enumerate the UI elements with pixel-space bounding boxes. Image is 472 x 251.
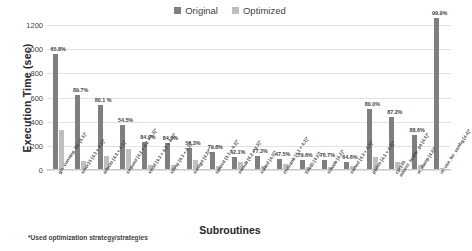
legend-label-original: Original xyxy=(185,5,218,16)
bar-data-label: 89.7% xyxy=(73,87,88,93)
y-axis-tick-label: 0 xyxy=(39,166,43,175)
bar-original xyxy=(255,156,260,169)
x-axis-labels: gls_constep_tile [4.1]*smvr15 [4.1 + 4.2… xyxy=(47,172,451,224)
x-axis-label-cell: swpued [4.1 + 4.2 + 4.3]* xyxy=(114,172,136,224)
x-axis-label-cell: swned [4.2 + 4.3]* xyxy=(339,172,361,224)
bar-original xyxy=(344,162,349,169)
bar-group: 65.8% xyxy=(47,24,69,169)
legend-item-optimized: Optimized xyxy=(232,5,286,16)
bar-original xyxy=(300,160,305,169)
y-axis-tick-label: 200 xyxy=(30,141,43,150)
bar-data-label: 79.8% xyxy=(208,144,223,150)
x-axis-label-cell: smvr15 [4.1 + 4.2]* xyxy=(69,172,91,224)
chart-legend: Original Optimized xyxy=(0,5,460,16)
y-axis-tick-label: 1000 xyxy=(26,45,43,54)
y-axis-tick-label: 1200 xyxy=(26,21,43,30)
x-axis-label-cell: filictD [4.2]* xyxy=(294,172,316,224)
bar-original xyxy=(434,18,439,169)
y-axis-tick-label: 800 xyxy=(30,69,43,78)
legend-swatch-original xyxy=(174,7,181,14)
bar-data-label: 65.8% xyxy=(51,46,66,52)
x-axis-label-cell: sinuob [4.2]* xyxy=(316,172,338,224)
bar-data-label: 64.6% xyxy=(342,154,357,160)
bar-original xyxy=(98,105,103,169)
x-axis-label-cell: adocts [4.1 + 4.2]* xyxy=(92,172,114,224)
x-axis-label-cell: w_damp [4.2]* xyxy=(406,172,428,224)
x-axis-label-cell: sprocd [4.1 + 4.2]* xyxy=(204,172,226,224)
x-axis-label-cell: suntgrt [4.2]* xyxy=(182,172,204,224)
bar-original xyxy=(277,159,282,169)
bar-group: 76.7% xyxy=(316,24,338,169)
bar-data-label: 99.9% xyxy=(432,10,447,16)
x-axis-label-cell: pbilim [4.1 + 4.2]* xyxy=(361,172,383,224)
bar-original xyxy=(210,152,215,169)
legend-label-optimized: Optimized xyxy=(243,5,286,16)
x-axis-label-cell: gls_constep_tile [4.1]* xyxy=(47,172,69,224)
chart-footnote: *Used optimization strategy/strategies xyxy=(28,234,148,241)
bar-data-label: 54.5% xyxy=(118,117,133,123)
bar-group: 47.5% xyxy=(271,24,293,169)
x-axis-label-cell: strud [4.1 + 4.2 + 4.3]* xyxy=(137,172,159,224)
legend-item-original: Original xyxy=(174,5,218,16)
x-axis-label-cell: cpry16advect_scalar_p4 [4.1]* xyxy=(384,172,406,224)
y-axis-tick-label: 600 xyxy=(30,93,43,102)
bar-original xyxy=(53,54,58,169)
x-axis-label-cell: in_use_for_config [4.4]* xyxy=(428,172,450,224)
bar-data-label: 80.0% xyxy=(365,101,380,107)
bar-data-label: 80.1 % xyxy=(95,97,112,103)
bar-original xyxy=(75,95,80,169)
x-axis-label-cell: mulcaob [4.1 + 4.2]* xyxy=(271,172,293,224)
bar-original xyxy=(232,157,237,169)
bar-data-label: 87.2% xyxy=(387,109,402,115)
x-axis-label-cell: sulard [4.2]* xyxy=(249,172,271,224)
bar-original xyxy=(322,160,327,169)
y-axis-tick-label: 400 xyxy=(30,117,43,126)
x-axis-label-cell: stlssy [4.1 + 4.2]* xyxy=(159,172,181,224)
legend-swatch-optimized xyxy=(232,7,239,14)
bar-group: 64.6% xyxy=(339,24,361,169)
x-axis-label-cell: swoub [4.2 + 4.3]* xyxy=(227,172,249,224)
